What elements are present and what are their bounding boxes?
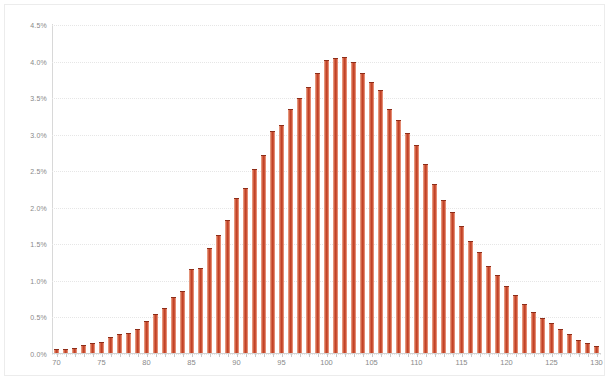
bar bbox=[387, 109, 392, 353]
bar bbox=[396, 120, 401, 353]
bar bbox=[216, 235, 221, 353]
x-tick-mark bbox=[480, 354, 481, 357]
x-tick-label: 105 bbox=[365, 358, 378, 367]
plot-area: 4.5%4.0%3.5%3.0%2.5%2.0%1.5%1.0%0.5%0.0%… bbox=[52, 24, 601, 354]
x-tick-mark bbox=[543, 354, 544, 357]
x-tick-mark bbox=[66, 354, 67, 357]
bar bbox=[351, 62, 356, 353]
bar bbox=[243, 188, 248, 353]
bar bbox=[477, 252, 482, 353]
chart-frame: 4.5%4.0%3.5%3.0%2.5%2.0%1.5%1.0%0.5%0.0%… bbox=[4, 4, 605, 376]
x-tick-mark bbox=[237, 354, 238, 357]
x-tick-mark bbox=[570, 354, 571, 357]
x-tick-mark bbox=[552, 354, 553, 357]
x-tick-mark bbox=[498, 354, 499, 357]
y-axis-line bbox=[52, 24, 53, 354]
bar bbox=[594, 346, 599, 353]
x-tick-mark bbox=[201, 354, 202, 357]
x-tick-mark bbox=[561, 354, 562, 357]
y-tick-label: 2.5% bbox=[3, 168, 47, 175]
bar bbox=[522, 304, 527, 353]
x-tick-label: 130 bbox=[590, 358, 603, 367]
bar bbox=[459, 226, 464, 353]
bar bbox=[405, 133, 410, 353]
x-tick-mark bbox=[264, 354, 265, 357]
x-tick-mark bbox=[282, 354, 283, 357]
bar bbox=[324, 60, 329, 353]
bar bbox=[252, 169, 257, 353]
bar bbox=[513, 295, 518, 353]
x-tick-label: 70 bbox=[52, 358, 60, 367]
x-tick-mark bbox=[453, 354, 454, 357]
bar bbox=[558, 329, 563, 353]
x-tick-mark bbox=[255, 354, 256, 357]
x-tick-mark bbox=[165, 354, 166, 357]
x-tick-label: 115 bbox=[456, 358, 468, 367]
x-tick-mark bbox=[120, 354, 121, 357]
x-tick-mark bbox=[174, 354, 175, 357]
bar bbox=[225, 220, 230, 353]
x-tick-mark bbox=[75, 354, 76, 357]
x-tick-mark bbox=[138, 354, 139, 357]
x-tick-label: 80 bbox=[142, 358, 150, 367]
bar bbox=[531, 312, 536, 353]
bar bbox=[468, 241, 473, 353]
x-tick-mark bbox=[246, 354, 247, 357]
x-tick-mark bbox=[183, 354, 184, 357]
bar bbox=[540, 318, 545, 353]
y-tick-label: 2.0% bbox=[3, 204, 47, 211]
bar bbox=[576, 340, 581, 353]
gridline-y bbox=[52, 25, 601, 27]
bar bbox=[270, 131, 275, 353]
x-tick-label: 110 bbox=[411, 358, 423, 367]
y-tick-label: 4.0% bbox=[3, 58, 47, 65]
bar bbox=[504, 286, 509, 353]
bar bbox=[153, 314, 158, 353]
bar bbox=[450, 212, 455, 353]
x-tick-mark bbox=[426, 354, 427, 357]
bar bbox=[495, 275, 500, 353]
x-tick-label: 85 bbox=[187, 358, 195, 367]
bar bbox=[126, 333, 131, 353]
bar bbox=[117, 334, 122, 353]
bar bbox=[189, 269, 194, 353]
x-tick-label: 120 bbox=[500, 358, 513, 367]
bar bbox=[567, 334, 572, 353]
x-tick-mark bbox=[597, 354, 598, 357]
bar bbox=[315, 73, 320, 353]
bar bbox=[414, 145, 419, 353]
bar bbox=[279, 125, 284, 353]
bar bbox=[342, 57, 347, 353]
x-tick-mark bbox=[534, 354, 535, 357]
bar bbox=[171, 297, 176, 353]
x-tick-mark bbox=[408, 354, 409, 357]
x-tick-mark bbox=[129, 354, 130, 357]
bar bbox=[549, 323, 554, 353]
y-tick-label: 3.5% bbox=[3, 95, 47, 102]
bar bbox=[441, 200, 446, 353]
x-tick-mark bbox=[381, 354, 382, 357]
x-tick-mark bbox=[525, 354, 526, 357]
bar bbox=[54, 349, 59, 353]
bar bbox=[162, 308, 167, 353]
x-tick-mark bbox=[507, 354, 508, 357]
bar bbox=[108, 337, 113, 353]
bar bbox=[306, 87, 311, 353]
x-tick-mark bbox=[111, 354, 112, 357]
bar bbox=[486, 266, 491, 353]
bar bbox=[423, 164, 428, 353]
x-tick-mark bbox=[372, 354, 373, 357]
x-tick-mark bbox=[516, 354, 517, 357]
x-tick-mark bbox=[300, 354, 301, 357]
x-tick-mark bbox=[327, 354, 328, 357]
x-tick-mark bbox=[192, 354, 193, 357]
x-tick-label: 125 bbox=[545, 358, 558, 367]
x-tick-mark bbox=[318, 354, 319, 357]
bar bbox=[369, 82, 374, 354]
bar bbox=[99, 342, 104, 353]
y-tick-label: 3.0% bbox=[3, 131, 47, 138]
bar bbox=[288, 109, 293, 353]
x-tick-mark bbox=[57, 354, 58, 357]
x-tick-mark bbox=[435, 354, 436, 357]
x-tick-mark bbox=[444, 354, 445, 357]
